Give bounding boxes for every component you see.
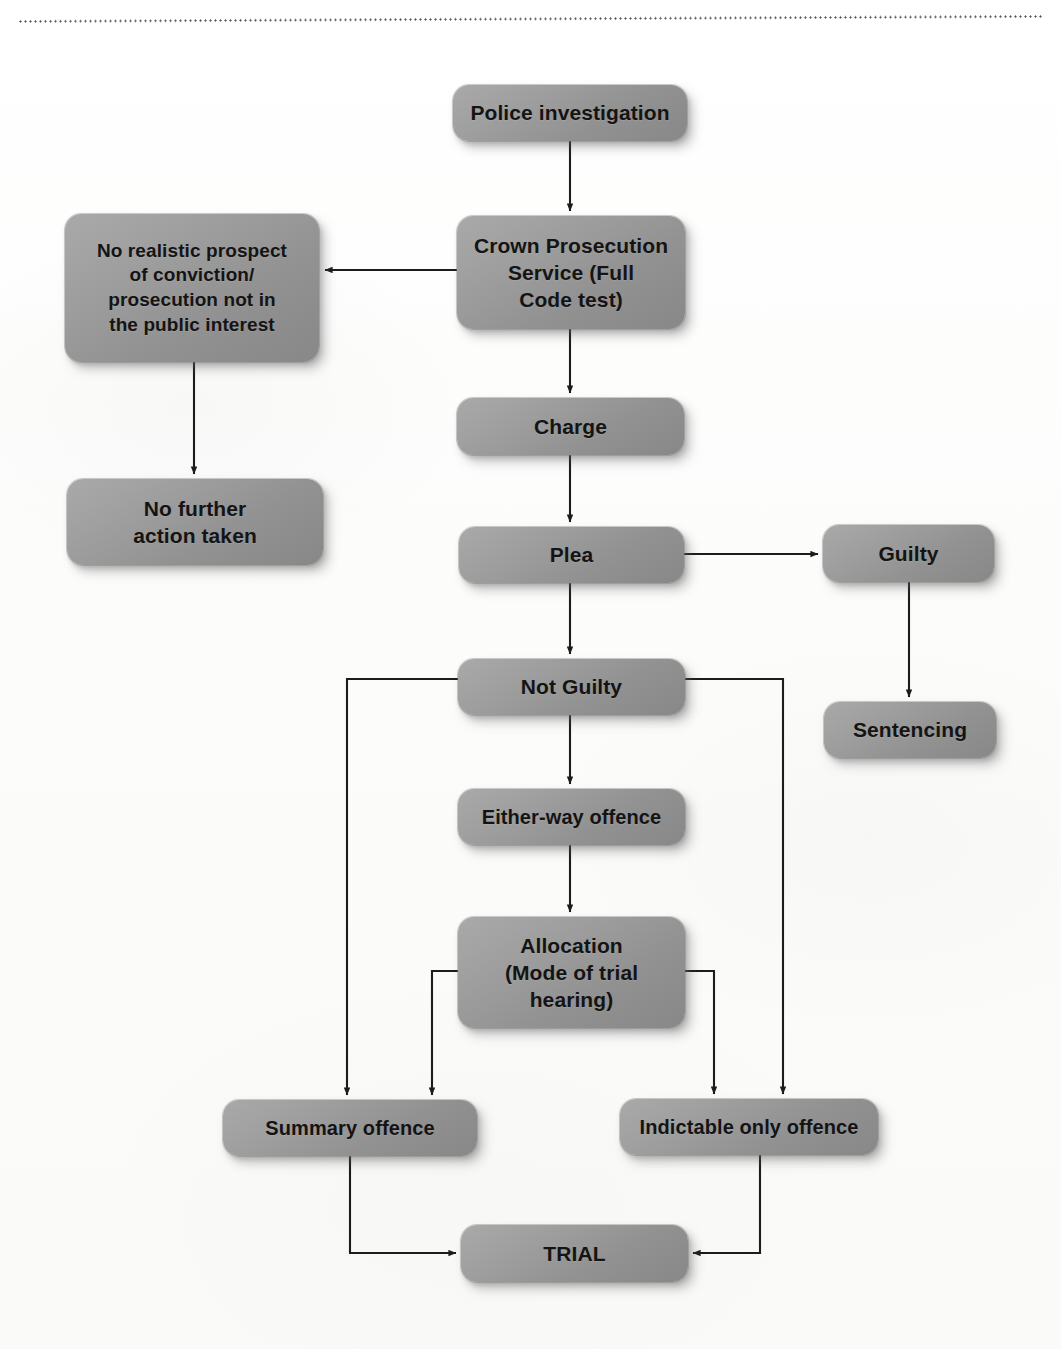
- node-no-further-action[interactable]: No further action taken: [67, 479, 323, 565]
- node-police-investigation[interactable]: Police investigation: [453, 85, 687, 141]
- node-crown-prosecution-service-label: Crown Prosecution Service (Full Code tes…: [465, 232, 677, 314]
- edge-not-guilty-to-summary: [347, 679, 458, 1095]
- node-charge-label: Charge: [465, 413, 676, 440]
- node-guilty-label: Guilty: [831, 540, 986, 567]
- node-plea-label: Plea: [467, 541, 676, 568]
- node-plea[interactable]: Plea: [459, 527, 684, 583]
- node-no-realistic-prospect[interactable]: No realistic prospect of conviction/ pro…: [65, 214, 319, 362]
- edge-summary-to-trial: [350, 1156, 456, 1253]
- node-allocation-label: Allocation (Mode of trial hearing): [466, 932, 677, 1014]
- node-not-guilty[interactable]: Not Guilty: [458, 659, 685, 715]
- node-sentencing-label: Sentencing: [832, 716, 988, 743]
- edge-allocation-to-indictable: [685, 971, 714, 1094]
- node-sentencing[interactable]: Sentencing: [824, 702, 996, 758]
- node-trial[interactable]: TRIAL: [461, 1225, 688, 1282]
- node-guilty[interactable]: Guilty: [823, 525, 994, 582]
- node-indictable-only-offence[interactable]: Indictable only offence: [620, 1099, 878, 1155]
- node-not-guilty-label: Not Guilty: [466, 673, 677, 700]
- edge-indictable-to-trial: [693, 1155, 760, 1253]
- node-either-way-offence[interactable]: Either-way offence: [458, 789, 685, 845]
- edge-not-guilty-to-indictable: [685, 679, 783, 1094]
- node-allocation[interactable]: Allocation (Mode of trial hearing): [458, 917, 685, 1028]
- node-either-way-offence-label: Either-way offence: [466, 804, 677, 830]
- node-no-realistic-prospect-label: No realistic prospect of conviction/ pro…: [73, 239, 311, 338]
- edge-allocation-to-summary: [432, 971, 458, 1095]
- node-indictable-only-offence-label: Indictable only offence: [628, 1114, 870, 1140]
- node-summary-offence-label: Summary offence: [231, 1115, 469, 1141]
- node-no-further-action-label: No further action taken: [75, 495, 315, 550]
- node-charge[interactable]: Charge: [457, 398, 684, 455]
- flowchart-page: Police investigation Crown Prosecution S…: [0, 0, 1061, 1349]
- node-police-investigation-label: Police investigation: [461, 99, 679, 126]
- node-summary-offence[interactable]: Summary offence: [223, 1100, 477, 1156]
- node-trial-label: TRIAL: [469, 1240, 680, 1267]
- node-crown-prosecution-service[interactable]: Crown Prosecution Service (Full Code tes…: [457, 216, 685, 329]
